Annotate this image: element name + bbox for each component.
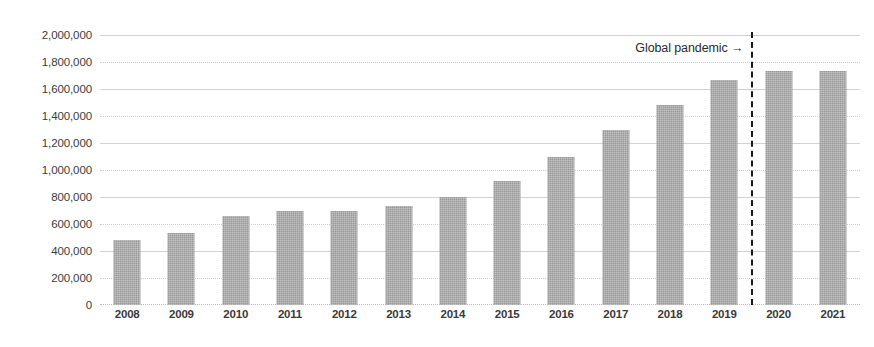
y-axis-tick-label: 2,000,000 [0, 29, 92, 41]
y-axis: 0200,000400,000600,000800,0001,000,0001,… [0, 35, 92, 305]
bar[interactable] [331, 211, 358, 305]
plot-area: Global pandemic → [100, 35, 860, 305]
bar[interactable] [168, 233, 195, 305]
x-axis-tick-label: 2012 [317, 308, 371, 320]
bar-slot [806, 35, 860, 305]
bar[interactable] [276, 211, 303, 305]
bar[interactable] [819, 71, 846, 305]
y-axis-tick-label: 1,800,000 [0, 56, 92, 68]
x-axis-tick-label: 2010 [209, 308, 263, 320]
x-axis-tick-label: 2011 [263, 308, 317, 320]
x-axis-tick-label: 2018 [643, 308, 697, 320]
bar[interactable] [114, 240, 141, 305]
y-axis-tick-label: 0 [0, 299, 92, 311]
x-axis-tick-label: 2019 [697, 308, 751, 320]
bar[interactable] [385, 206, 412, 305]
bar[interactable] [222, 216, 249, 305]
bar[interactable] [548, 157, 575, 306]
bar-slot [317, 35, 371, 305]
y-axis-tick-label: 1,200,000 [0, 137, 92, 149]
bar-slot [426, 35, 480, 305]
bar-slot [751, 35, 805, 305]
x-axis-tick-label: 2013 [371, 308, 425, 320]
y-axis-tick-label: 1,000,000 [0, 164, 92, 176]
y-axis-tick-label: 200,000 [0, 272, 92, 284]
y-axis-tick-label: 400,000 [0, 245, 92, 257]
x-axis: 2008200920102011201220132014201520162017… [100, 308, 860, 332]
bar-slot [100, 35, 154, 305]
y-axis-tick-label: 1,600,000 [0, 83, 92, 95]
x-axis-tick-label: 2020 [751, 308, 805, 320]
bar-slot [534, 35, 588, 305]
bar-slot [371, 35, 425, 305]
y-axis-tick-label: 600,000 [0, 218, 92, 230]
bar-slot [697, 35, 751, 305]
x-axis-tick-label: 2017 [589, 308, 643, 320]
bar-slot [643, 35, 697, 305]
x-axis-tick-label: 2021 [806, 308, 860, 320]
x-axis-tick-label: 2015 [480, 308, 534, 320]
pandemic-annotation-label: Global pandemic → [635, 41, 743, 55]
bar[interactable] [602, 130, 629, 305]
x-axis-tick-label: 2016 [534, 308, 588, 320]
bar-series [100, 35, 860, 305]
bar[interactable] [656, 105, 683, 305]
bar-slot [209, 35, 263, 305]
y-axis-tick-label: 1,400,000 [0, 110, 92, 122]
pandemic-marker-line [751, 32, 753, 305]
bar[interactable] [494, 181, 521, 305]
bar-chart: 0200,000400,000600,000800,0001,000,0001,… [0, 0, 874, 347]
bar[interactable] [711, 80, 738, 305]
bar-slot [480, 35, 534, 305]
bar-slot [154, 35, 208, 305]
bar-slot [589, 35, 643, 305]
x-axis-tick-label: 2009 [154, 308, 208, 320]
bar[interactable] [439, 197, 466, 305]
x-axis-tick-label: 2014 [426, 308, 480, 320]
bar[interactable] [765, 71, 792, 305]
y-axis-tick-label: 800,000 [0, 191, 92, 203]
x-axis-tick-label: 2008 [100, 308, 154, 320]
bar-slot [263, 35, 317, 305]
